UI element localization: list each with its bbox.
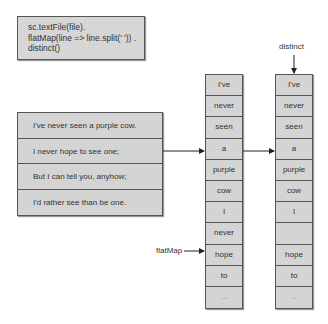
arrows [0, 0, 328, 324]
